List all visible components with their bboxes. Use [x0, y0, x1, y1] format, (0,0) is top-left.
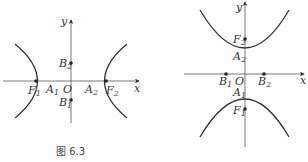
figure-caption: 图 6.3 [56, 146, 85, 157]
b1-label: B1 [58, 96, 72, 110]
a1-label: A1 [45, 83, 59, 97]
figure-canvas: y x O F1 A1 A2 F2 B2 B1 y x O F2 A2 B1 B… [0, 0, 308, 162]
lower-branch-curve [200, 99, 289, 137]
b2-label: B2 [257, 75, 271, 89]
f2-label: F2 [105, 84, 119, 98]
a1-label: A1 [232, 86, 246, 100]
f2-label: F2 [232, 33, 246, 47]
b2-label: B2 [58, 57, 72, 71]
b1-label: B1 [218, 75, 232, 89]
a2-label: A2 [232, 50, 246, 64]
right-hyperbola-figure: y x O F2 A2 B1 B2 A1 F1 [184, 1, 307, 147]
a2-label: A2 [84, 83, 98, 97]
left-hyperbola-figure: y x O F1 A1 A2 F2 B2 B1 [3, 15, 141, 123]
x-axis-label: x [300, 74, 307, 87]
x-axis-label: x [134, 82, 141, 95]
y-axis-label: y [235, 1, 243, 14]
focus-f1-point [34, 79, 38, 83]
focus-f2-point [104, 79, 108, 83]
f1-label: F1 [232, 104, 246, 118]
origin-label: O [63, 83, 72, 96]
f1-label: F1 [27, 84, 41, 98]
y-axis-label: y [60, 15, 68, 28]
